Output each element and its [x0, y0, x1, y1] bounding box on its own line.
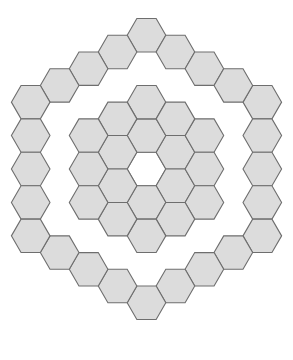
hex-grid-canvas — [0, 0, 293, 360]
hex-pattern-figure — [0, 0, 293, 360]
